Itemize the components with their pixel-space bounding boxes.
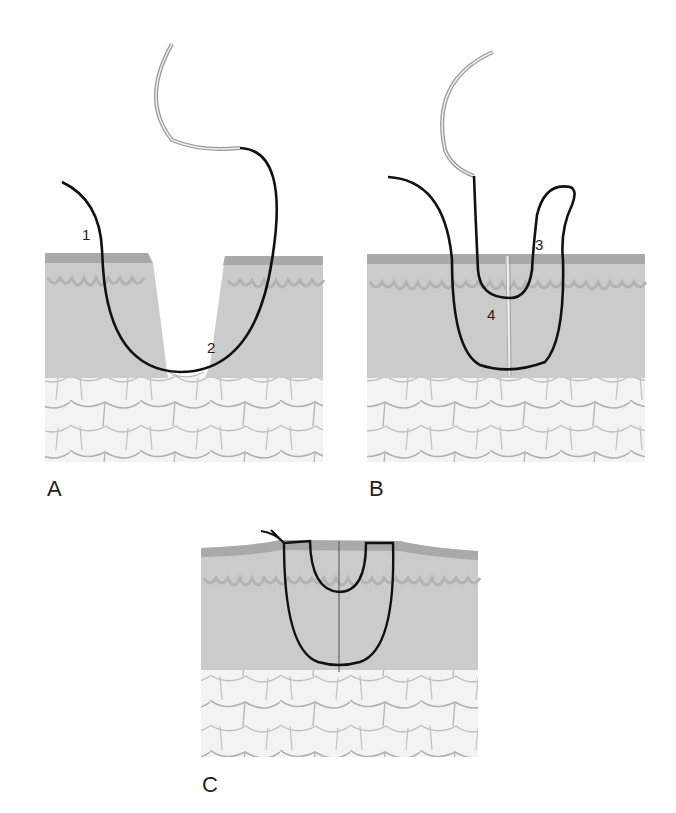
dermis-left: [45, 253, 168, 378]
step-label-4: 4: [487, 306, 495, 323]
step-label-1: 1: [82, 226, 90, 243]
step-label-3: 3: [535, 236, 543, 253]
fat-layer: [45, 375, 323, 462]
panel-c: [201, 530, 480, 757]
panel-label-b: B: [369, 476, 384, 502]
panel-a: 1 2: [45, 44, 324, 462]
panel-label-a: A: [47, 476, 62, 502]
needle-icon: [156, 44, 240, 149]
fat-layer: [367, 378, 645, 462]
suture-diagram: 1 2 3 4 A B C: [0, 0, 676, 813]
step-label-2: 2: [207, 339, 215, 356]
panel-b: 3 4: [367, 52, 646, 462]
epidermis-left: [45, 253, 152, 263]
needle-icon: [442, 52, 493, 176]
fat-layer: [201, 670, 478, 757]
panel-label-c: C: [202, 772, 218, 798]
